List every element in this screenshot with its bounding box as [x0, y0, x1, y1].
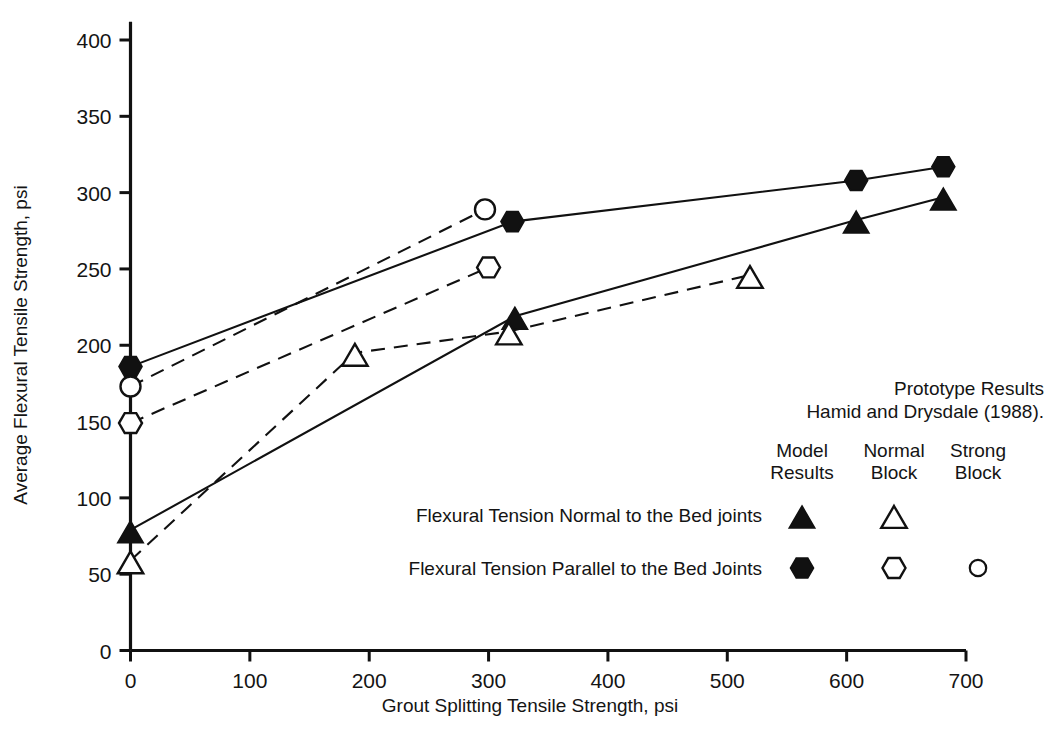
legend-column-title: Normal — [863, 440, 924, 461]
figure-root: 0501001502002503003504000100200300400500… — [0, 0, 1061, 755]
marker-filled-hexagon — [119, 357, 142, 377]
marker-open-hexagon — [119, 413, 142, 433]
x-tick-label: 700 — [948, 669, 983, 692]
marker-open-circle — [970, 560, 986, 576]
y-tick-label: 150 — [76, 411, 111, 434]
legend-column-title: Model — [776, 440, 828, 461]
series-3 — [118, 188, 956, 543]
y-tick-label: 350 — [76, 105, 111, 128]
series-1 — [121, 199, 495, 396]
marker-filled-hexagon — [845, 170, 868, 190]
x-tick-label: 300 — [471, 669, 506, 692]
x-tick-label: 500 — [710, 669, 745, 692]
series-line — [131, 209, 485, 386]
legend-column-title: Strong — [950, 440, 1006, 461]
y-tick-label: 50 — [88, 563, 111, 586]
marker-filled-hexagon — [501, 212, 524, 232]
marker-filled-triangle — [789, 506, 814, 528]
figure-caption-strip — [0, 741, 1061, 755]
legend-row-label: Flexural Tension Parallel to the Bed Joi… — [409, 558, 762, 579]
legend-heading-line1: Prototype Results — [894, 378, 1044, 399]
y-axis-title: Average Flexural Tensile Strength, psi — [10, 185, 31, 504]
series-0 — [119, 157, 955, 377]
axis-labels-layer: 0501001502002503003504000100200300400500… — [10, 29, 984, 716]
chart-canvas: 0501001502002503003504000100200300400500… — [0, 0, 1061, 755]
x-tick-label: 100 — [232, 669, 267, 692]
series-4 — [118, 266, 763, 573]
y-tick-label: 0 — [100, 640, 112, 663]
marker-open-triangle — [118, 551, 143, 573]
x-axis-title: Grout Splitting Tensile Strength, psi — [382, 695, 678, 716]
series-line — [131, 167, 944, 367]
y-tick-label: 250 — [76, 258, 111, 281]
x-tick-label: 600 — [829, 669, 864, 692]
legend-heading-line2: Hamid and Drysdale (1988). — [806, 401, 1044, 422]
y-tick-label: 200 — [76, 334, 111, 357]
x-tick-label: 200 — [352, 669, 387, 692]
x-tick-label: 0 — [125, 669, 137, 692]
marker-open-circle — [475, 199, 495, 219]
marker-open-triangle — [342, 344, 367, 366]
x-tick-label: 400 — [590, 669, 625, 692]
legend-column-title: Results — [770, 462, 833, 483]
marker-open-triangle — [881, 506, 906, 528]
legend-column-title: Block — [955, 462, 1002, 483]
legend-column-title: Block — [871, 462, 918, 483]
y-tick-label: 300 — [76, 182, 111, 205]
marker-open-hexagon — [477, 257, 500, 277]
chart-legend: Prototype ResultsHamid and Drysdale (198… — [409, 378, 1044, 579]
marker-open-circle — [121, 376, 141, 396]
y-tick-label: 400 — [76, 29, 111, 52]
legend-row-label: Flexural Tension Normal to the Bed joint… — [416, 505, 762, 526]
series-2 — [119, 257, 500, 433]
marker-open-hexagon — [883, 558, 906, 578]
marker-filled-hexagon — [932, 157, 955, 177]
marker-filled-hexagon — [791, 558, 814, 578]
y-tick-label: 100 — [76, 487, 111, 510]
